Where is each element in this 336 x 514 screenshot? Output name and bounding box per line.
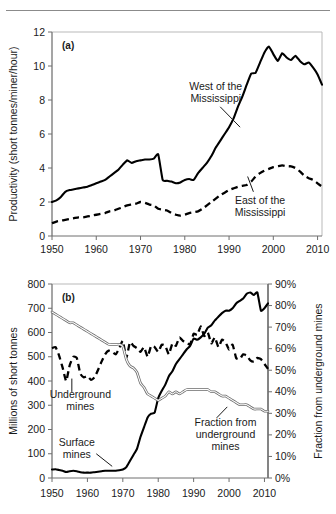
y-tick-label-left: 200 <box>27 423 45 435</box>
annotation-surface-line2: mines <box>63 448 91 460</box>
x-tick-label: 1950 <box>40 487 64 499</box>
y-tick-label-right: 50% <box>275 364 296 376</box>
y-tick-label: 12 <box>33 26 45 38</box>
y-tick-label-right: 30% <box>275 407 296 419</box>
y-tick-label-right: 80% <box>275 299 296 311</box>
y-tick-label-left: 600 <box>27 326 45 338</box>
panel-b-svg: 01002003004005006007008000%10%20%30%40%5… <box>0 266 336 514</box>
x-tick-label: 1970 <box>111 487 135 499</box>
x-tick-label: 1980 <box>147 487 171 499</box>
annotation-surface-line1: Surface <box>59 436 95 448</box>
y-axis-ticks-left: 0100200300400500600700800 <box>27 278 52 484</box>
x-tick-label: 1990 <box>182 487 206 499</box>
x-tick-label: 2000 <box>262 243 286 255</box>
y-tick-label-right: 70% <box>275 321 296 333</box>
x-tick-label: 1950 <box>40 243 64 255</box>
x-tick-label: 2010 <box>253 487 277 499</box>
y-axis-title: Productivity (short tonnes/miner/hour) <box>7 46 19 221</box>
y-tick-label-left: 400 <box>27 375 45 387</box>
y-axis-title-right: Fraction from underground mines <box>312 303 324 458</box>
series-line-underground-mines <box>52 326 268 381</box>
y-tick-label-left: 0 <box>39 472 45 484</box>
y-tick-label-left: 800 <box>27 278 45 290</box>
x-tick-label: 1960 <box>85 243 109 255</box>
x-axis-ticks: 1950196019701980199020002010 <box>40 236 329 255</box>
y-axis-ticks: 024681012 <box>33 26 52 242</box>
y-tick-label: 2 <box>39 196 45 208</box>
panel-b-production: 01002003004005006007008000%10%20%30%40%5… <box>0 266 336 514</box>
y-tick-label-right: 0% <box>275 472 290 484</box>
y-tick-label-right: 90% <box>275 278 296 290</box>
y-tick-label-left: 700 <box>27 302 45 314</box>
annotation-east-line1: East of the <box>235 194 285 206</box>
y-tick-label: 4 <box>39 162 45 174</box>
annotation-fraction-line1: Fraction from <box>195 416 257 428</box>
y-axis-title-left: Millions of short tonnes <box>7 327 19 434</box>
y-tick-label: 8 <box>39 94 45 106</box>
panel-a-productivity: 0246810121950196019701980199020002010Pro… <box>0 14 336 266</box>
figure-coal-mining-statistics: 0246810121950196019701980199020002010Pro… <box>0 0 336 514</box>
y-tick-label-right: 20% <box>275 428 296 440</box>
annotation-fraction-line2: underground <box>196 428 256 440</box>
y-tick-label-right: 40% <box>275 385 296 397</box>
annotation-west-line1: West of the <box>189 80 242 92</box>
y-tick-label-left: 100 <box>27 447 45 459</box>
x-tick-label: 2000 <box>217 487 241 499</box>
series-line-west-of-the-mississippi <box>52 46 322 202</box>
annotation-underground-line1: Underground <box>50 388 111 400</box>
y-tick-label-left: 500 <box>27 350 45 362</box>
annotation-underground-line2: mines <box>66 400 94 412</box>
panel-b-annotations: UndergroundminesSurfaceminesFraction fro… <box>50 379 257 467</box>
x-tick-label: 1980 <box>173 243 197 255</box>
y-tick-label: 10 <box>33 60 45 72</box>
x-tick-label: 1960 <box>76 487 100 499</box>
annotation-fraction-line3: mines <box>212 440 240 452</box>
x-tick-label: 1970 <box>129 243 153 255</box>
x-tick-label: 1990 <box>217 243 241 255</box>
panel-label-b: (b) <box>62 292 75 303</box>
x-axis-ticks: 1950196019701980199020002010 <box>40 478 276 499</box>
panel-a-svg: 0246810121950196019701980199020002010Pro… <box>0 14 336 266</box>
y-tick-label-right: 10% <box>275 450 296 462</box>
y-tick-label: 0 <box>39 230 45 242</box>
y-tick-label-right: 60% <box>275 342 296 354</box>
x-tick-label: 2010 <box>306 243 330 255</box>
y-axis-ticks-right: 0%10%20%30%40%50%60%70%80%90% <box>268 278 296 484</box>
panel-a-annotations: West of theMississippiEast of theMississ… <box>189 80 285 218</box>
y-tick-label: 6 <box>39 128 45 140</box>
annotation-surface-leader <box>96 454 112 467</box>
annotation-east-line2: Mississippi <box>235 206 286 218</box>
panel-label-a: (a) <box>62 40 74 51</box>
annotation-west-line2: Mississippi <box>190 92 241 104</box>
y-tick-label-left: 300 <box>27 399 45 411</box>
